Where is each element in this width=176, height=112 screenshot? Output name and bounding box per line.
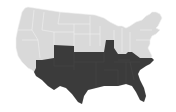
us-map (0, 0, 176, 112)
